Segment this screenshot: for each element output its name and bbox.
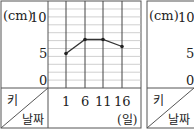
x-tick-1: 1 bbox=[62, 94, 70, 109]
right-row-label-height: 키 bbox=[153, 94, 164, 108]
chart-svg: (cm) 10 5 0 키 날짜 1 6 11 16 (일) bbox=[0, 0, 194, 131]
right-chart: (cm) 10 5 0 키 날짜 bbox=[147, 1, 194, 128]
x-tick-16: 16 bbox=[114, 94, 131, 109]
grid-lines bbox=[48, 9, 141, 80]
right-y-tick-10: 10 bbox=[178, 10, 194, 25]
right-y-unit-label: (cm) bbox=[149, 8, 179, 23]
x-tick-6: 6 bbox=[81, 94, 89, 109]
x-unit-label: (일) bbox=[117, 113, 137, 127]
left-chart: (cm) 10 5 0 키 날짜 1 6 11 16 (일) bbox=[1, 1, 141, 128]
row-label-date: 날짜 bbox=[22, 113, 44, 127]
x-tick-11: 11 bbox=[95, 94, 112, 109]
y-unit-label: (cm) bbox=[3, 8, 33, 23]
y-tick-10: 10 bbox=[30, 10, 47, 25]
right-y-tick-0: 0 bbox=[186, 73, 194, 88]
right-y-tick-5: 5 bbox=[186, 46, 194, 61]
data-line bbox=[66, 40, 122, 54]
right-row-label-date: 날짜 bbox=[168, 113, 190, 127]
y-tick-5: 5 bbox=[39, 46, 47, 61]
category-lines bbox=[66, 1, 122, 88]
charts-figure: (cm) 10 5 0 키 날짜 1 6 11 16 (일) bbox=[0, 0, 194, 131]
row-label-height: 키 bbox=[7, 94, 18, 108]
y-tick-0: 0 bbox=[39, 73, 47, 88]
